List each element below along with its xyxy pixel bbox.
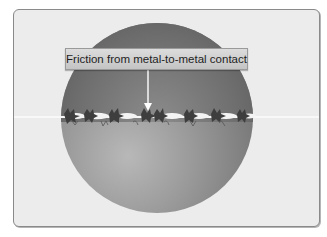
asperity-contact-zone: [14, 10, 319, 226]
callout-label-text: Friction from metal-to-metal contact: [66, 53, 247, 65]
lower-asperity-marks: [72, 121, 225, 126]
callout-label: Friction from metal-to-metal contact: [65, 48, 248, 70]
callout-arrow: [144, 68, 152, 111]
diagram-panel: Friction from metal-to-metal contact: [13, 9, 320, 227]
